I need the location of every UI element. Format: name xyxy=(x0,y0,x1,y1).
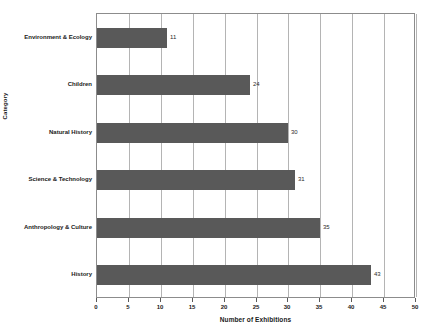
gridline xyxy=(161,14,162,297)
x-tick-label: 20 xyxy=(214,303,234,311)
x-tick-mark xyxy=(224,298,225,302)
bar-chart: Category Environment & EcologyChildrenNa… xyxy=(0,0,434,331)
category-label: Anthropology & Culture xyxy=(4,223,92,231)
x-tick-mark xyxy=(96,298,97,302)
x-tick-mark xyxy=(287,298,288,302)
bar xyxy=(97,170,295,190)
category-label: Children xyxy=(4,80,92,88)
x-tick-label: 50 xyxy=(405,303,425,311)
gridline xyxy=(257,14,258,297)
x-tick-label: 15 xyxy=(182,303,202,311)
category-label: Natural History xyxy=(4,128,92,136)
bar xyxy=(97,265,371,285)
bar xyxy=(97,218,320,238)
bar-value-label: 11 xyxy=(170,33,176,41)
x-tick-label: 0 xyxy=(86,303,106,311)
x-tick-label: 40 xyxy=(341,303,361,311)
category-label: Environment & Ecology xyxy=(4,33,92,41)
gridline xyxy=(129,14,130,297)
x-tick-label: 35 xyxy=(309,303,329,311)
x-tick-label: 45 xyxy=(373,303,393,311)
bar-value-label: 43 xyxy=(374,270,381,278)
bar-value-label: 24 xyxy=(253,80,260,88)
x-tick-label: 25 xyxy=(246,303,266,311)
x-axis-title: Number of Exhibitions xyxy=(96,315,415,324)
category-label: History xyxy=(4,270,92,278)
x-tick-mark xyxy=(319,298,320,302)
bar-value-label: 30 xyxy=(291,128,298,136)
gridline xyxy=(193,14,194,297)
gridline xyxy=(416,14,417,297)
x-tick-mark xyxy=(128,298,129,302)
x-tick-mark xyxy=(351,298,352,302)
x-tick-label: 10 xyxy=(150,303,170,311)
x-tick-label: 30 xyxy=(277,303,297,311)
gridline xyxy=(320,14,321,297)
bar-value-label: 35 xyxy=(323,223,330,231)
bar xyxy=(97,123,288,143)
category-label: Science & Technology xyxy=(4,175,92,183)
gridline xyxy=(288,14,289,297)
x-tick-label: 5 xyxy=(118,303,138,311)
plot-area xyxy=(96,13,415,298)
gridline xyxy=(225,14,226,297)
x-tick-mark xyxy=(415,298,416,302)
x-tick-mark xyxy=(192,298,193,302)
gridline xyxy=(384,14,385,297)
bar-value-label: 31 xyxy=(298,175,305,183)
gridline xyxy=(352,14,353,297)
bar xyxy=(97,28,167,48)
x-tick-mark xyxy=(256,298,257,302)
x-tick-mark xyxy=(160,298,161,302)
x-tick-mark xyxy=(383,298,384,302)
bar xyxy=(97,75,250,95)
